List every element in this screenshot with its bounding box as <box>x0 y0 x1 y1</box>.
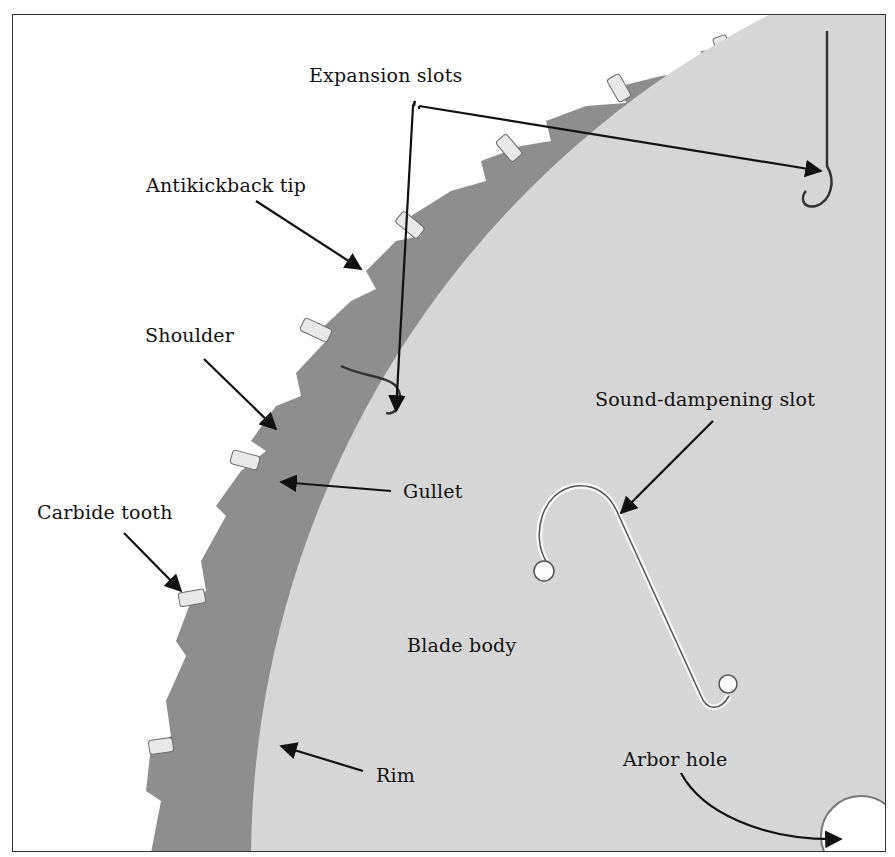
label-blade-body: Blade body <box>407 634 516 656</box>
saw-blade-illustration <box>13 15 886 852</box>
diagram-frame: Expansion slots Antikickback tip Shoulde… <box>12 14 886 852</box>
label-expansion-slots: Expansion slots <box>309 64 463 86</box>
label-gullet: Gullet <box>403 480 463 502</box>
label-sound-dampening-slot: Sound-dampening slot <box>595 388 815 410</box>
label-carbide-tooth: Carbide tooth <box>37 501 173 523</box>
label-shoulder: Shoulder <box>145 324 234 346</box>
label-antikickback-tip: Antikickback tip <box>146 174 306 196</box>
label-arbor-hole: Arbor hole <box>623 748 728 770</box>
label-rim: Rim <box>376 764 415 786</box>
